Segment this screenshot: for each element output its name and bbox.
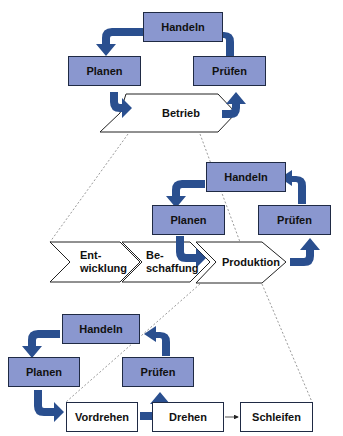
cycle-box-handeln-3: Handeln bbox=[62, 314, 140, 344]
process-label-line1: Be- bbox=[146, 249, 199, 262]
process-label-produktion: Produktion bbox=[222, 256, 280, 269]
cycle-box-planen-3: Planen bbox=[8, 357, 80, 387]
process-label-line2: wicklung bbox=[80, 262, 127, 275]
process-label-betrieb: Betrieb bbox=[162, 107, 200, 120]
cycle-box-handeln-1: Handeln bbox=[143, 12, 223, 42]
cycle-box-pruefen-2: Prüfen bbox=[258, 205, 331, 235]
cycle-box-pruefen-1: Prüfen bbox=[193, 56, 266, 86]
process-label-entwicklung: Ent- wicklung bbox=[80, 249, 127, 275]
cycle-box-planen-1: Planen bbox=[68, 56, 141, 86]
process-label-line2: schaffung bbox=[146, 262, 199, 275]
process-label-beschaffung: Be- schaffung bbox=[146, 249, 199, 275]
cycle-box-pruefen-3: Prüfen bbox=[122, 357, 194, 387]
step-box-drehen: Drehen bbox=[152, 402, 224, 432]
process-label-line1: Ent- bbox=[80, 249, 127, 262]
cycle-box-handeln-2: Handeln bbox=[206, 162, 286, 192]
step-box-vordrehen: Vordrehen bbox=[66, 402, 138, 432]
step-box-schleifen: Schleifen bbox=[240, 402, 313, 432]
cycle-box-planen-2: Planen bbox=[152, 205, 225, 235]
